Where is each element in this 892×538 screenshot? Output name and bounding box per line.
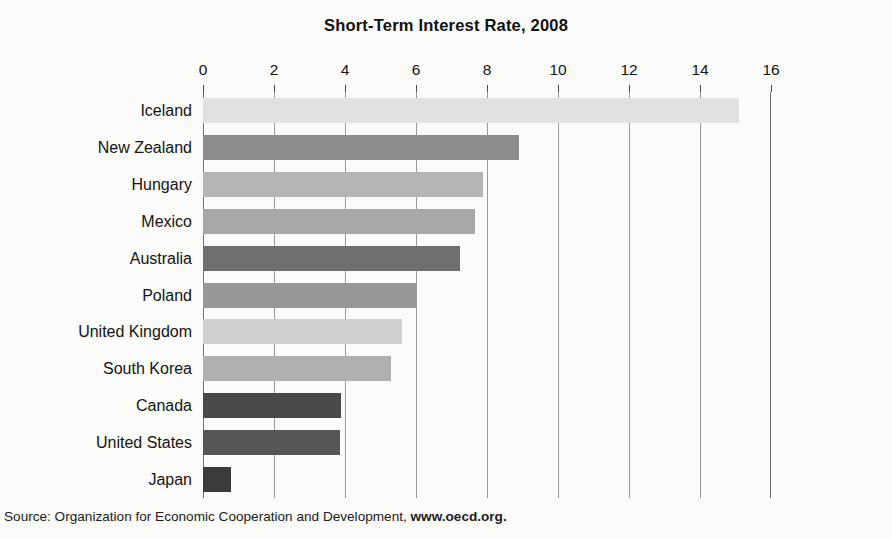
- x-axis-tick: [771, 85, 772, 92]
- bar-row: New Zealand: [203, 129, 771, 166]
- x-axis-tick-label: 8: [483, 61, 492, 79]
- bar-row: South Korea: [203, 350, 771, 387]
- x-axis-tick-label: 0: [199, 61, 208, 79]
- x-axis-tick-label: 10: [549, 61, 566, 79]
- category-label: Australia: [130, 246, 192, 271]
- x-axis-tick: [203, 85, 204, 92]
- chart-page: Short-Term Interest Rate, 2008 024681012…: [0, 0, 892, 538]
- x-axis-tick: [274, 85, 275, 92]
- bar: [203, 393, 341, 418]
- category-label: Poland: [142, 283, 192, 308]
- source-note: Source: Organization for Economic Cooper…: [4, 509, 507, 524]
- bar-row: Australia: [203, 240, 771, 277]
- x-axis-tick: [700, 85, 701, 92]
- x-axis-tick: [416, 85, 417, 92]
- plot-area: 0246810121416 IcelandNew ZealandHungaryM…: [203, 92, 771, 498]
- category-label: Mexico: [141, 209, 192, 234]
- x-axis-tick: [345, 85, 346, 92]
- bar: [203, 172, 483, 197]
- bar-row: Iceland: [203, 92, 771, 129]
- bar: [203, 283, 416, 308]
- bar: [203, 319, 402, 344]
- x-axis-tick-label: 12: [620, 61, 637, 79]
- category-label: Hungary: [132, 172, 192, 197]
- bar: [203, 209, 475, 234]
- category-label: South Korea: [103, 356, 192, 381]
- category-label: United Kingdom: [78, 319, 192, 344]
- bar-row: Poland: [203, 277, 771, 314]
- x-axis-tick-label: 14: [691, 61, 708, 79]
- bar-row: Mexico: [203, 203, 771, 240]
- source-prefix: Source: Organization for Economic Cooper…: [4, 509, 411, 524]
- category-label: Iceland: [140, 98, 192, 123]
- bar: [203, 135, 519, 160]
- category-label: New Zealand: [98, 135, 192, 160]
- bar-row: Canada: [203, 387, 771, 424]
- bars-layer: IcelandNew ZealandHungaryMexicoAustralia…: [203, 92, 771, 498]
- bar-row: Hungary: [203, 166, 771, 203]
- category-label: Japan: [148, 467, 192, 492]
- x-axis-tick-label: 4: [341, 61, 350, 79]
- bar-row: Japan: [203, 461, 771, 498]
- bar-row: United States: [203, 424, 771, 461]
- x-axis-tick: [487, 85, 488, 92]
- bar: [203, 98, 739, 123]
- bar: [203, 467, 231, 492]
- x-axis-tick-label: 16: [762, 61, 779, 79]
- bar-row: United Kingdom: [203, 313, 771, 350]
- x-axis-tick-label: 6: [412, 61, 421, 79]
- category-label: Canada: [136, 393, 192, 418]
- bar: [203, 246, 460, 271]
- x-axis-tick: [629, 85, 630, 92]
- bar: [203, 356, 391, 381]
- x-axis-tick-label: 2: [270, 61, 279, 79]
- x-axis-tick: [558, 85, 559, 92]
- source-url: www.oecd.org.: [411, 509, 507, 524]
- category-label: United States: [96, 430, 192, 455]
- chart-title: Short-Term Interest Rate, 2008: [0, 16, 892, 35]
- bar: [203, 430, 340, 455]
